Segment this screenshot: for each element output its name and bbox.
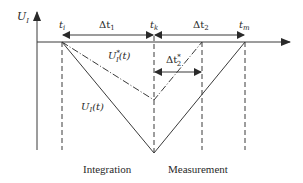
dt1-label: Δt1 xyxy=(99,19,115,32)
ui-curve-label: UI(t) xyxy=(81,101,104,114)
tk-label: tk xyxy=(150,19,158,32)
ui-star-curve-label: U*I(t) xyxy=(108,49,131,64)
ti-label: ti xyxy=(59,19,65,32)
ui-star-curve-dashdot xyxy=(62,42,202,100)
y-axis-label: UI xyxy=(17,10,29,25)
integration-phase-label: Integration xyxy=(83,163,132,175)
integration-measurement-diagram: UI ti tk tm Δt1 Δt2 Δt*2 U*I(t) UI(t) In… xyxy=(0,0,303,183)
dt2-label: Δt2 xyxy=(193,19,209,32)
dt2star-label: Δt*2 xyxy=(166,53,181,68)
measurement-phase-label: Measurement xyxy=(168,163,228,175)
tm-label: tm xyxy=(239,19,250,32)
